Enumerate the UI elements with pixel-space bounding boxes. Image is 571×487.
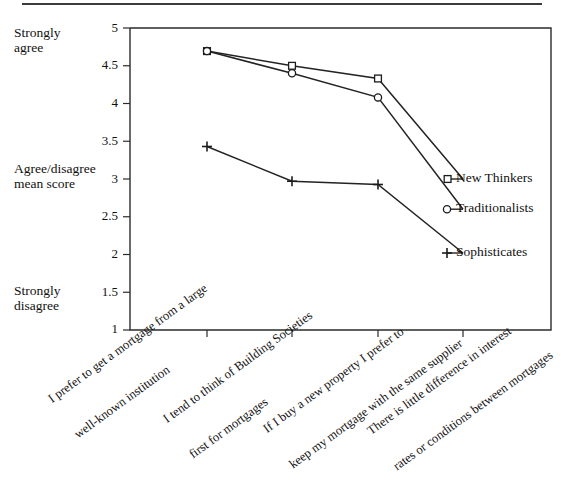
legend-label-new-thinkers: New Thinkers xyxy=(456,170,533,185)
legend-label-sophisticates: Sophisticates xyxy=(456,244,527,259)
y-axis-ticks xyxy=(123,28,130,330)
y-tick-label-4: 4 xyxy=(78,96,118,111)
y-axis-caption-strongly-agree: Strongly agree xyxy=(14,25,61,55)
legend-label-traditionalists: Traditionalists xyxy=(456,200,534,215)
y-tick-label-4_5: 4.5 xyxy=(78,58,118,73)
y-axis-caption-mean-score: Agree/disagree mean score xyxy=(14,161,96,191)
y-tick-label-3_5: 3.5 xyxy=(78,134,118,149)
y-tick-label-2: 2 xyxy=(78,247,118,262)
y-axis-caption-strongly-disagree: Strongly disagree xyxy=(14,283,61,313)
y-tick-label-2_5: 2.5 xyxy=(78,209,118,224)
y-tick-label-1_5: 1.5 xyxy=(78,285,118,300)
series-new-thinkers xyxy=(204,48,463,183)
chart-figure: 5 4.5 4 3.5 3 2.5 2 1.5 1 Strongly agree… xyxy=(0,0,571,487)
series-sophisticates xyxy=(202,142,463,259)
y-tick-label-5: 5 xyxy=(78,21,118,36)
